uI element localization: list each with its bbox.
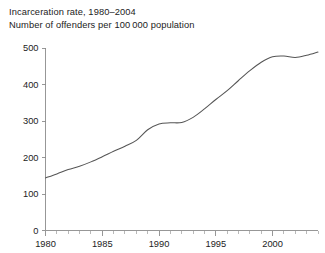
y-tick-label: 500 [23,43,39,53]
incarceration-rate-line [46,52,319,178]
x-tick-label: 1995 [205,239,226,249]
axes-group [46,48,319,231]
line-chart-plot: 0100200300400500 19801985199019952000 [0,0,325,253]
x-tick-label: 1985 [92,239,113,249]
x-tick-group: 19801985199019952000 [35,231,318,249]
y-tick-label: 400 [23,80,39,90]
y-tick-label: 0 [33,226,38,236]
x-tick-label: 2000 [262,239,283,249]
x-tick-label: 1980 [35,239,56,249]
y-tick-label: 100 [23,189,39,199]
chart-figure: Incarceration rate, 1980–2004 Number of … [0,0,325,253]
y-tick-label: 300 [23,116,39,126]
y-tick-group: 0100200300400500 [23,43,46,236]
x-tick-label: 1990 [149,239,170,249]
y-tick-label: 200 [23,153,39,163]
